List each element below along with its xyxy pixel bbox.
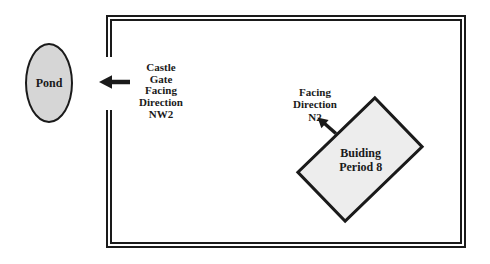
castle-gate-label-line: Castle: [111, 62, 211, 74]
castle-wall-rectangle: [106, 15, 466, 248]
facing-n2-label: Facing Direction N2: [285, 86, 345, 123]
castle-site-diagram: Pond Castle Gate Facing Direction NW2 Fa…: [0, 0, 490, 264]
pond-shape: Pond: [25, 43, 73, 123]
castle-gate-label: Castle Gate Facing Direction NW2: [111, 62, 211, 121]
pond-label: Pond: [36, 76, 63, 91]
facing-n2-label-line: Facing: [285, 86, 345, 98]
building-period8-label-line: Buiding: [339, 146, 382, 160]
building-period8-label: Buiding Period 8: [339, 146, 382, 174]
building-period8-label-line: Period 8: [339, 160, 382, 174]
castle-gate-label-line: NW2: [111, 109, 211, 121]
facing-n2-label-line: Direction: [285, 98, 345, 110]
facing-n2-label-line: N2: [285, 111, 345, 123]
